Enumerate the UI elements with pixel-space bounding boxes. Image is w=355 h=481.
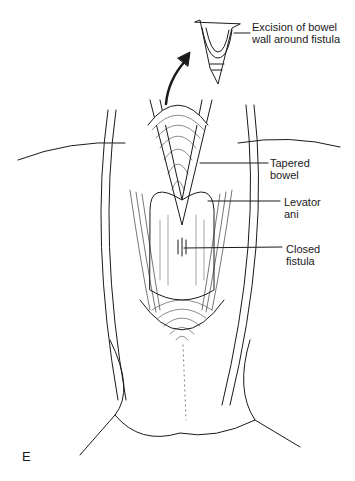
- closed-fistula-leader: [184, 247, 282, 248]
- surgical-illustration: [0, 0, 355, 481]
- label-tapered-bowel: Tapered bowel: [270, 157, 310, 181]
- label-excision: Excision of bowel wall around fistula: [252, 21, 340, 45]
- curved-arrow: [166, 60, 186, 104]
- excised-wedge: [195, 20, 240, 84]
- closed-fistula-mark: [178, 238, 186, 256]
- label-levator-ani: Levator ani: [284, 196, 321, 220]
- panel-label: E: [22, 449, 31, 464]
- label-closed-fistula: Closed fistula: [286, 243, 320, 267]
